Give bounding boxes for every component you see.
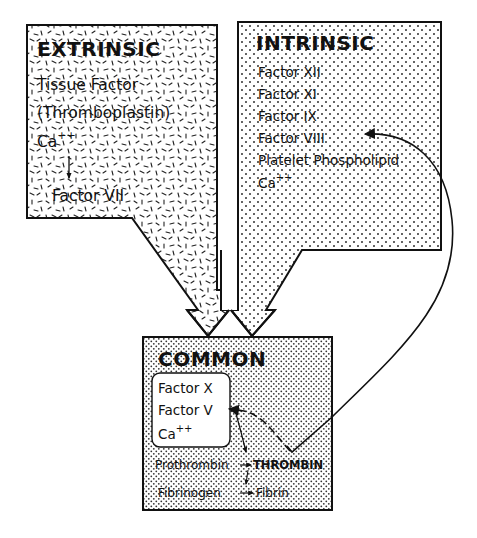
extrinsic-shape [27, 25, 229, 336]
intrinsic-title: INTRINSIC [256, 31, 374, 55]
reaction-prothrombin: Prothrombin [155, 458, 229, 472]
reaction-fibrinogen: Fibrinogen [158, 486, 221, 500]
intrinsic-item-factor-ix: Factor IX [258, 108, 317, 124]
extrinsic-item-tissue-factor: Tissue Factor [36, 76, 139, 94]
calcium-superscript: ++ [57, 129, 75, 142]
intrinsic-item-factor-xi: Factor XI [258, 86, 317, 102]
intrinsic-item-platelet-phospholipid: Platelet Phospholipid [258, 152, 399, 168]
intrinsic-panel: INTRINSIC Factor XII Factor XI Factor IX… [231, 22, 441, 336]
calcium-label: Ca [258, 175, 276, 191]
common-item-factor-x: Factor X [158, 380, 213, 396]
extrinsic-panel: EXTRINSIC Tissue Factor (Thromboplastin)… [27, 25, 229, 336]
calcium-label: Ca [37, 133, 57, 151]
common-item-factor-v: Factor V [158, 402, 214, 418]
intrinsic-item-factor-xii: Factor XII [258, 64, 321, 80]
extrinsic-title: EXTRINSIC [37, 37, 160, 61]
reaction-fibrin: Fibrin [256, 486, 289, 500]
coagulation-cascade-diagram: EXTRINSIC Tissue Factor (Thromboplastin)… [0, 0, 477, 538]
calcium-superscript: ++ [276, 172, 293, 183]
common-title: COMMON [158, 347, 266, 371]
calcium-superscript: ++ [176, 423, 193, 434]
arrow-separator [221, 250, 238, 310]
extrinsic-item-factor-vii: Factor VII [52, 187, 124, 205]
reaction-thrombin: THROMBIN [253, 458, 323, 472]
extrinsic-item-thromboplastin: (Thromboplastin) [37, 104, 170, 122]
common-panel: COMMON Factor X Factor V Ca++ Prothrombi… [143, 310, 332, 510]
intrinsic-item-factor-viii: Factor VIII [258, 130, 325, 146]
calcium-label: Ca [158, 426, 176, 442]
